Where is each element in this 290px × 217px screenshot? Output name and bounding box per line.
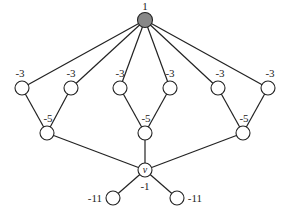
edge-b1-v [47, 133, 145, 170]
node-a2 [64, 81, 78, 95]
edge-root-a1 [22, 20, 145, 88]
edge-b3-v [145, 133, 243, 170]
edge-root-a2 [71, 20, 145, 88]
node-b1 [40, 126, 54, 140]
nodes-group [15, 13, 275, 206]
node-value-label: -3 [115, 68, 124, 79]
node-value-label: -3 [215, 68, 224, 79]
node-value-label: -3 [66, 68, 75, 79]
node-a6 [261, 81, 275, 95]
edge-a5-b3 [218, 88, 243, 133]
node-value-label: -11 [88, 193, 102, 204]
graph-diagram: 1-3-3-3-3-3-3-5-5-5v-1-11-11 [0, 0, 290, 217]
node-value-label: -3 [265, 68, 274, 79]
node-b3 [236, 126, 250, 140]
node-value-label: -5 [141, 113, 150, 124]
node-root [138, 13, 153, 28]
node-a4 [163, 81, 177, 95]
node-c2 [170, 191, 184, 205]
node-a5 [211, 81, 225, 95]
edge-a4-b2 [145, 88, 170, 133]
node-inner-label: v [143, 165, 147, 175]
edge-a6-b3 [243, 88, 268, 133]
node-value-label: 1 [142, 1, 148, 12]
node-a3 [113, 81, 127, 95]
node-b2 [138, 126, 152, 140]
node-value-label: -5 [43, 113, 52, 124]
node-value-label: -3 [15, 68, 24, 79]
node-value-label: -11 [188, 193, 202, 204]
node-value-label: -5 [239, 113, 248, 124]
edge-a2-b1 [47, 88, 71, 133]
edge-a1-b1 [22, 88, 47, 133]
node-value-label: -3 [165, 68, 174, 79]
edge-a3-b2 [120, 88, 145, 133]
node-c1 [106, 191, 120, 205]
node-a1 [15, 81, 29, 95]
node-value-label: -1 [140, 181, 149, 192]
